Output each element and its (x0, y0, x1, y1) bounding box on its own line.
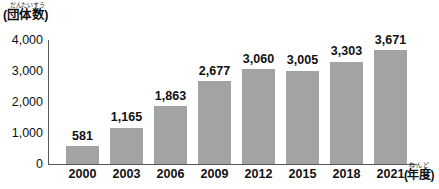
bar-value-label: 1,863 (155, 90, 186, 103)
bar-rect (66, 146, 99, 164)
x-axis-category-label: 2021 (377, 168, 405, 181)
y-axis-tick-label: 0 (36, 157, 43, 171)
y-axis-tick-label: 1,000 (12, 126, 43, 140)
bar-item: 5812000 (66, 40, 99, 164)
y-axis-tick-label: 2,000 (12, 95, 43, 109)
x-axis-unit-caption: ねんど (年度) (404, 162, 434, 181)
bar-rect (374, 50, 407, 164)
bar-value-label: 3,005 (287, 54, 318, 67)
bar-rect (154, 106, 187, 164)
x-axis-category-label: 2006 (157, 168, 185, 181)
bar-item: 2,6772009 (198, 40, 231, 164)
y-axis-line (48, 40, 49, 164)
bar-value-label: 581 (72, 130, 93, 143)
bar-item: 1,8632006 (154, 40, 187, 164)
x-axis-category-label: 2018 (333, 168, 361, 181)
bar-rect (286, 71, 319, 164)
y-axis-tick-label: 4,000 (12, 33, 43, 47)
bar-rect (330, 62, 363, 164)
bar-chart: だんたいすう (団体数) 01,0002,0003,0004,000 58120… (0, 0, 439, 189)
x-axis-category-label: 2003 (113, 168, 141, 181)
bar-rect (242, 69, 275, 164)
x-axis-category-label: 2009 (201, 168, 229, 181)
bar-value-label: 3,303 (331, 45, 362, 58)
y-axis-unit-label: (団体数) (3, 9, 48, 22)
bar-value-label: 3,671 (375, 34, 406, 47)
plot-area: 01,0002,0003,0004,000 58120001,16520031,… (48, 40, 417, 164)
x-axis-line (48, 164, 417, 165)
bar-value-label: 1,165 (111, 111, 142, 124)
bar-item: 1,1652003 (110, 40, 143, 164)
bar-item: 3,0052015 (286, 40, 319, 164)
x-axis-category-label: 2012 (245, 168, 273, 181)
bar-rect (110, 128, 143, 164)
y-axis-unit-caption: だんたいすう (団体数) (3, 2, 48, 22)
bar-item: 3,0602012 (242, 40, 275, 164)
x-axis-category-label: 2000 (69, 168, 97, 181)
bar-value-label: 3,060 (243, 53, 274, 66)
bar-item: 3,3032018 (330, 40, 363, 164)
bar-value-label: 2,677 (199, 65, 230, 78)
x-axis-category-label: 2015 (289, 168, 317, 181)
y-axis-tick-label: 3,000 (12, 64, 43, 78)
x-axis-unit-label: (年度) (404, 169, 434, 181)
bar-item: 3,6712021 (374, 40, 407, 164)
bar-rect (198, 81, 231, 164)
